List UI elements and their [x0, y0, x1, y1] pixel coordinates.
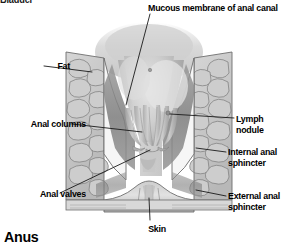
label-anal-columns: Anal columns	[6, 118, 86, 129]
label-lymph-nodule: Lymph nodule	[236, 113, 293, 135]
fat-pad-right	[190, 52, 232, 200]
label-anal-valves: Anal valves	[6, 188, 86, 199]
label-mucous-membrane-of-anal-canal: Mucous membrane of anal canal	[148, 2, 278, 13]
label-fat: Fat	[5, 60, 70, 71]
label-external-anal-sphincter: External anal sphincter	[228, 190, 280, 212]
anatomy-figure-anus: Bladder	[0, 0, 297, 249]
label-internal-anal-sphincter: Internal anal sphincter	[228, 146, 277, 168]
label-skin: Skin	[141, 223, 173, 234]
figure-caption: Anus	[4, 228, 38, 245]
